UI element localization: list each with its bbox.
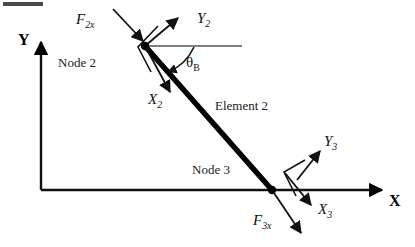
local-axis-y3-arrow (297, 151, 320, 180)
global-y-axis-label: Y (18, 32, 30, 48)
local-axis-x2-label: X2 (148, 92, 162, 110)
x2-subscript: 2 (157, 99, 162, 110)
local-axis-y2-arrow (145, 18, 178, 46)
force-f3x-label: F3x (253, 213, 272, 231)
f3x-symbol: F (253, 212, 262, 228)
force-f3x-arrow (272, 190, 301, 233)
force-f2x-label: F2x (76, 12, 95, 30)
y3-subscript: 3 (332, 141, 337, 152)
x3-symbol: X (318, 201, 327, 217)
angle-theta-b-label: θB (186, 55, 200, 73)
x3-subscript: 3 (327, 209, 332, 220)
force-f2x-arrow (113, 9, 143, 41)
local-axis-y2-label: Y2 (197, 11, 210, 29)
f2x-subscript: 2x (85, 19, 94, 30)
node-2-marker (141, 42, 149, 50)
local-axis-y3-label: Y3 (324, 134, 337, 152)
diagram-vector-layer (0, 0, 415, 247)
node-2-label: Node 2 (58, 56, 96, 69)
theta-subscript: B (193, 62, 200, 73)
node-3-marker (268, 186, 276, 194)
element-2-label: Element 2 (215, 99, 268, 112)
figure-canvas: Y X Node 2 Node 3 Element 2 θB Y2 X2 Y3 … (0, 0, 415, 247)
f2x-symbol: F (76, 11, 85, 27)
f3x-subscript: 3x (262, 220, 271, 231)
y2-subscript: 2 (205, 18, 210, 29)
x2-symbol: X (148, 91, 157, 107)
node-3-label: Node 3 (192, 163, 230, 176)
local-axis-x3-label: X3 (318, 202, 332, 220)
global-x-axis-label: X (389, 193, 401, 209)
